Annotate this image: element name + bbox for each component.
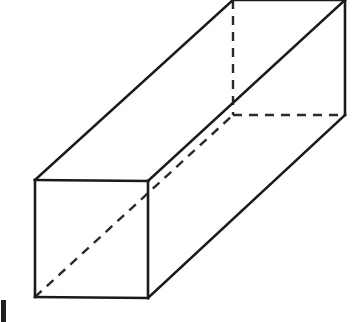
prism-figure (0, 0, 356, 322)
solid-edge-front-face-bottom (35, 297, 148, 298)
prism-drawing-canvas (0, 0, 356, 322)
cropped-caption-stub (1, 300, 6, 322)
solid-edge-front-face-top (35, 180, 148, 181)
